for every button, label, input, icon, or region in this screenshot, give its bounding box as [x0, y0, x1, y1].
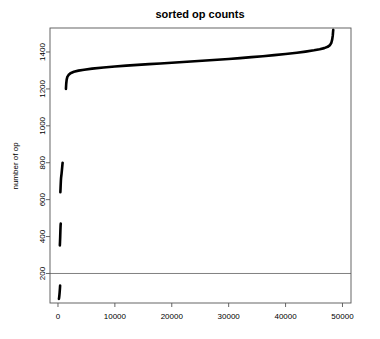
x-tick-label-10000: 10000 [104, 312, 127, 321]
series-segment-3-mid [60, 163, 62, 193]
y-axis: 200400600800100012001400 [38, 43, 50, 281]
x-tick-label-40000: 40000 [274, 312, 297, 321]
y-tick-label-600: 600 [38, 192, 47, 206]
y-axis-title: number of op [11, 142, 20, 190]
plot-canvas: sorted op counts number of op 2004006008… [0, 0, 380, 339]
data-series-group [59, 30, 333, 299]
chart-title: sorted op counts [155, 8, 244, 20]
y-tick-label-400: 400 [38, 229, 47, 243]
x-axis: 01000020000300004000050000 [56, 303, 354, 321]
series-segment-4-main [66, 30, 333, 89]
y-tick-label-1000: 1000 [38, 116, 47, 134]
x-tick-label-30000: 30000 [218, 312, 241, 321]
y-tick-label-1200: 1200 [38, 79, 47, 97]
x-tick-label-20000: 20000 [161, 312, 184, 321]
y-tick-label-1400: 1400 [38, 43, 47, 61]
chart-figure: sorted op counts number of op 2004006008… [0, 0, 380, 339]
series-segment-1-lowest [59, 286, 60, 299]
series-segment-2-low [60, 224, 61, 246]
x-tick-label-50000: 50000 [331, 312, 354, 321]
y-tick-label-800: 800 [38, 156, 47, 170]
x-tick-label-0: 0 [56, 312, 61, 321]
y-tick-label-200: 200 [38, 266, 47, 280]
